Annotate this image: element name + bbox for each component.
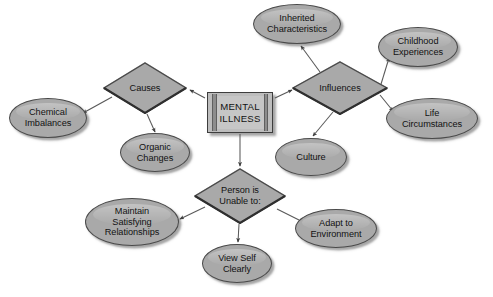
node-label-view-self-clearly: View Self Clearly	[215, 253, 259, 274]
node-label-organic-changes: Organic Changes	[134, 142, 176, 163]
edge-mi-to-causes	[190, 90, 205, 98]
node-chemical-imbalances[interactable]: Chemical Imbalances	[9, 98, 87, 138]
node-person-unable-to[interactable]: Person is Unable to:	[194, 168, 286, 224]
edge-mi-to-influences	[275, 90, 292, 98]
edge-unable-viewself	[238, 224, 239, 242]
node-label-mental-illness: MENTAL ILLNESS	[216, 101, 263, 123]
node-causes[interactable]: Causes	[103, 62, 187, 114]
node-life-circumstances[interactable]: Life Circumstances	[386, 98, 478, 139]
node-label-influences: Influences	[316, 83, 363, 94]
node-organic-changes[interactable]: Organic Changes	[120, 133, 190, 172]
node-label-maintain-satisfying-relationships: Maintain Satisfying Relationships	[102, 206, 163, 238]
node-label-person-unable-to: Person is Unable to:	[216, 185, 263, 206]
node-view-self-clearly[interactable]: View Self Clearly	[202, 244, 272, 283]
edge-influences-culture	[313, 112, 333, 136]
node-inherited-characteristics[interactable]: Inherited Characteristics	[253, 4, 341, 44]
node-label-causes: Causes	[127, 83, 164, 94]
node-maintain-satisfying-relationships[interactable]: Maintain Satisfying Relationships	[85, 198, 179, 246]
node-influences[interactable]: Influences	[292, 61, 388, 115]
node-label-inherited-characteristics: Inherited Characteristics	[264, 13, 330, 34]
node-label-life-circumstances: Life Circumstances	[399, 108, 465, 129]
box-right-bar	[264, 94, 269, 131]
node-label-chemical-imbalances: Chemical Imbalances	[22, 107, 74, 128]
edge-causes-organic	[147, 114, 155, 132]
node-label-culture: Culture	[293, 152, 328, 163]
node-mental-illness[interactable]: MENTAL ILLNESS	[207, 92, 273, 133]
node-label-childhood-experiences: Childhood Experiences	[390, 36, 446, 57]
concept-map-canvas: MENTAL ILLNESS Causes Influences	[0, 0, 493, 297]
node-label-adapt-to-environment: Adapt to Environment	[307, 218, 364, 239]
node-childhood-experiences[interactable]: Childhood Experiences	[378, 27, 458, 67]
node-adapt-to-environment[interactable]: Adapt to Environment	[295, 209, 377, 248]
